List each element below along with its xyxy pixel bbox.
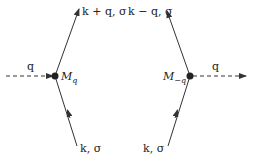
right-outgoing-fermion-label: k − q, σ <box>128 5 173 18</box>
left-outgoing-fermion-line <box>55 9 79 76</box>
right-boson-label: q <box>212 60 219 73</box>
right-incoming-fermion-line <box>168 76 190 146</box>
feynman-diagram: q Mq k + q, σ k, σ q M−q k − q, σ k, σ <box>0 0 254 163</box>
left-boson-label: q <box>27 60 34 73</box>
left-incoming-fermion-label: k, σ <box>80 142 102 155</box>
right-incoming-fermion-label: k, σ <box>143 142 165 155</box>
right-vertex-diagram: q M−q k − q, σ k, σ <box>128 5 246 155</box>
right-vertex-dot <box>187 73 194 80</box>
right-outgoing-fermion-line <box>167 11 190 76</box>
left-incoming-fermion-line <box>55 76 77 146</box>
right-vertex-label: M−q <box>162 70 186 85</box>
left-outgoing-fermion-label: k + q, σ <box>82 5 127 18</box>
left-vertex-diagram: q Mq k + q, σ k, σ <box>6 5 127 155</box>
left-vertex-label: Mq <box>60 70 77 85</box>
left-vertex-dot <box>52 73 59 80</box>
